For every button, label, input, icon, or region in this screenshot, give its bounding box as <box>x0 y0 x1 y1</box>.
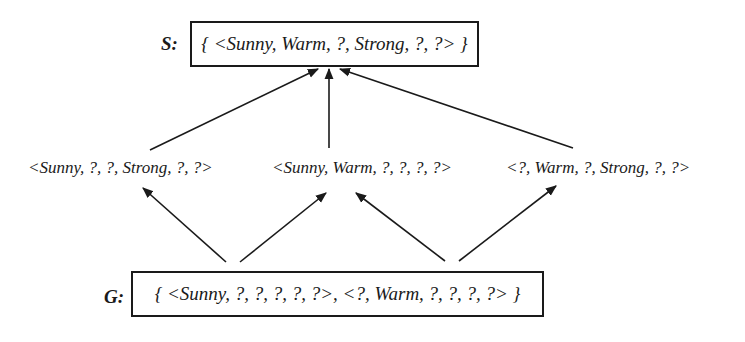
arrow-g1-to-h2 <box>356 193 445 261</box>
hypothesis-node-1: <Sunny, ?, ?, Strong, ?, ?> <box>28 158 213 178</box>
hypothesis-node-3: <?, Warm, ?, Strong, ?, ?> <box>506 158 690 178</box>
g-boundary-label: G: <box>104 286 124 308</box>
g-boundary-box: { <Sunny, ?, ?, ?, ?, ?>, <?, Warm, ?, ?… <box>131 271 544 317</box>
s-boundary-set: { <Sunny, Warm, ?, Strong, ?, ?> } <box>201 33 467 55</box>
arrow-h3-to-s <box>340 69 573 148</box>
s-boundary-label: S: <box>161 33 178 55</box>
s-boundary-box: { <Sunny, Warm, ?, Strong, ?, ?> } <box>190 21 479 67</box>
arrow-g1-to-h3 <box>459 186 556 261</box>
g-boundary-set: { <Sunny, ?, ?, ?, ?, ?>, <?, Warm, ?, ?… <box>155 283 521 305</box>
arrow-h1-to-s <box>150 69 318 150</box>
hypothesis-node-2: <Sunny, Warm, ?, ?, ?, ?> <box>272 158 452 178</box>
arrow-g0-to-h1 <box>143 188 226 262</box>
version-space-diagram: S: { <Sunny, Warm, ?, Strong, ?, ?> } <S… <box>0 0 745 342</box>
arrow-g0-to-h2 <box>240 193 326 262</box>
